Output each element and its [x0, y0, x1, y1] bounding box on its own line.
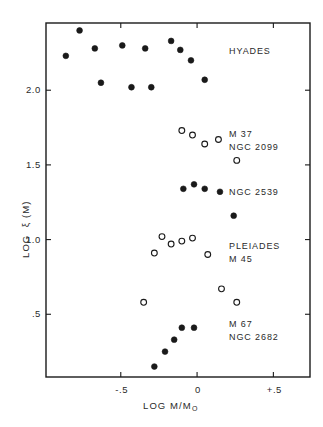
open-data-point	[219, 286, 225, 292]
open-data-point	[234, 158, 240, 164]
series-m-67-ngc-2682	[151, 325, 196, 370]
x-tick-label-2: +.5	[262, 384, 286, 395]
open-data-point	[168, 241, 174, 247]
x-tick-label-0: -.5	[110, 384, 134, 395]
series-pleiades-m-45	[141, 234, 240, 306]
filled-data-point	[231, 213, 237, 219]
annotation-m37-line-1: NGC 2099	[229, 142, 279, 152]
open-data-point	[179, 238, 185, 244]
filled-data-point	[191, 325, 197, 331]
filled-data-point	[148, 84, 154, 90]
y-tick-label-1: 1.5	[15, 159, 41, 170]
filled-data-point	[191, 181, 197, 187]
open-data-point	[234, 299, 240, 305]
filled-data-point	[98, 80, 104, 86]
open-data-point	[141, 299, 147, 305]
y-tick-label-0: 2.0	[15, 84, 41, 95]
filled-data-point	[162, 349, 168, 355]
filled-data-point	[77, 28, 83, 34]
annotation-m67-line-0: M 67	[229, 319, 253, 329]
x-axis-title-subscript: O	[192, 405, 199, 412]
figure-scatter-plot: -.50+.52.01.51.0.5 LOG ξ (M) LOG M/MO HY…	[0, 0, 323, 427]
filled-data-point	[129, 84, 135, 90]
data-points	[63, 28, 240, 370]
filled-data-point	[179, 325, 185, 331]
filled-data-point	[168, 38, 174, 44]
open-data-point	[202, 141, 208, 147]
plot-frame	[46, 23, 310, 377]
filled-data-point	[171, 337, 177, 343]
annotation-m67-line-1: NGC 2682	[229, 332, 279, 342]
filled-data-point	[151, 364, 157, 370]
open-data-point	[205, 252, 211, 258]
y-tick-label-2: 1.0	[15, 234, 41, 245]
filled-data-point	[180, 186, 186, 192]
annotation-pleiades-line-1: M 45	[229, 254, 253, 264]
annotation-pleiades-line-0: PLEIADES	[229, 241, 280, 251]
annotation-ngc2539-line-0: NGC 2539	[229, 187, 279, 197]
open-data-point	[216, 137, 222, 143]
axis-ticks	[46, 23, 310, 377]
y-tick-label-3: .5	[15, 308, 41, 319]
filled-data-point	[119, 43, 125, 49]
annotation-hyades-line-0: HYADES	[229, 46, 271, 56]
filled-data-point	[142, 45, 148, 51]
open-data-point	[190, 235, 196, 241]
filled-data-point	[63, 53, 69, 59]
filled-data-point	[202, 186, 208, 192]
annotation-m37-line-0: M 37	[229, 129, 253, 139]
filled-data-point	[217, 189, 223, 195]
series-hyades	[63, 28, 208, 91]
plot-frame-rect	[46, 23, 310, 377]
filled-data-point	[202, 77, 208, 83]
open-data-point	[159, 234, 165, 240]
plot-canvas	[0, 0, 323, 427]
open-data-point	[151, 250, 157, 256]
filled-data-point	[177, 47, 183, 53]
filled-data-point	[92, 45, 98, 51]
x-tick-label-1: 0	[186, 384, 210, 395]
open-data-point	[190, 132, 196, 138]
x-axis-title: LOG M/MO	[143, 400, 198, 412]
open-data-point	[179, 128, 185, 134]
filled-data-point	[188, 57, 194, 63]
